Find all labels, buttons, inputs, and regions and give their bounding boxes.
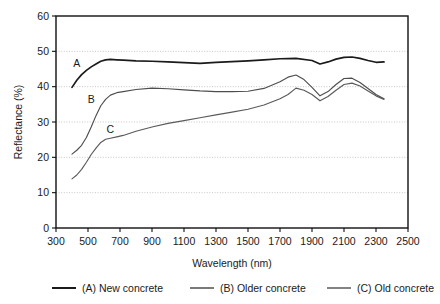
reflectance-chart-figure: 0102030405060 30050070090011001300150017…	[0, 0, 440, 304]
curve-label-C: C	[107, 123, 115, 135]
xtick-label-1700: 1700	[268, 235, 292, 247]
legend-item-c: (C) Old concrete	[327, 282, 434, 294]
xtick-label-1300: 1300	[204, 235, 228, 247]
ytick-label-10: 10	[37, 186, 49, 198]
ytick-label-60: 60	[37, 10, 49, 22]
legend-label-b: (B) Older concrete	[220, 282, 306, 294]
ytick-label-0: 0	[43, 222, 49, 234]
xtick-label-700: 700	[111, 235, 129, 247]
xtick-label-1900: 1900	[300, 235, 324, 247]
xtick-label-2500: 2500	[396, 235, 420, 247]
x-axis-tick-labels: 3005007009001100130015001700190021002300…	[47, 235, 420, 247]
xtick-label-1500: 1500	[236, 235, 260, 247]
curve-a	[72, 57, 384, 87]
legend-label-c: (C) Old concrete	[357, 282, 434, 294]
curve-c	[72, 83, 384, 179]
legend-item-b: (B) Older concrete	[190, 282, 306, 294]
ytick-label-40: 40	[37, 80, 49, 92]
ytick-label-30: 30	[37, 116, 49, 128]
xtick-label-900: 900	[143, 235, 161, 247]
legend-item-a: (A) New concrete	[52, 282, 163, 294]
chart-legend: (A) New concrete (B) Older concrete (C) …	[52, 282, 434, 294]
plot-curves	[72, 57, 384, 179]
ytick-label-20: 20	[37, 151, 49, 163]
xtick-label-1100: 1100	[173, 235, 196, 247]
xtick-label-500: 500	[79, 235, 97, 247]
curve-inline-labels: ABC	[73, 57, 114, 134]
curve-label-A: A	[73, 57, 80, 69]
xtick-label-2300: 2300	[364, 235, 388, 247]
y-axis-tick-labels: 0102030405060	[37, 10, 49, 234]
xtick-label-2100: 2100	[332, 235, 356, 247]
ytick-label-50: 50	[37, 45, 49, 57]
chart-svg: 0102030405060 30050070090011001300150017…	[0, 0, 440, 304]
curve-label-B: B	[88, 93, 95, 105]
legend-label-a: (A) New concrete	[82, 282, 163, 294]
xtick-label-300: 300	[47, 235, 65, 247]
x-axis-title: Wavelength (nm)	[192, 257, 272, 269]
y-axis-title: Reflectance (%)	[12, 85, 24, 160]
